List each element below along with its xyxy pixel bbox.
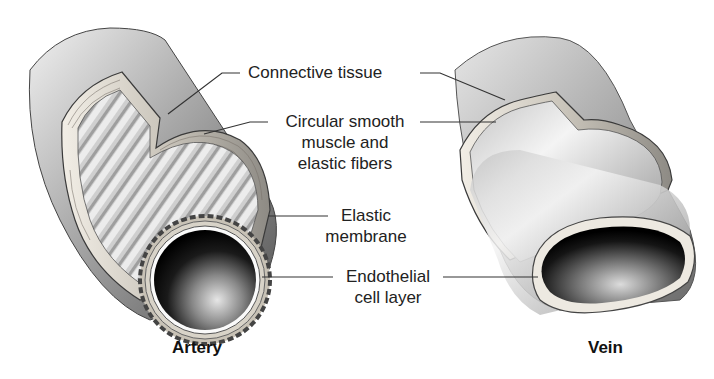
label-endothelial-cell-layer: Endothelial cell layer	[336, 266, 440, 308]
label-elastic-membrane-line1: Elastic	[316, 205, 416, 226]
label-elastic-membrane: Elastic membrane	[316, 205, 416, 247]
label-endothelial-line1: Endothelial	[336, 266, 440, 287]
label-circular-smooth-muscle-line1: Circular smooth	[270, 111, 420, 132]
label-circular-smooth-muscle-line2: muscle and	[270, 132, 420, 153]
label-endothelial-line2: cell layer	[336, 287, 440, 308]
label-circular-smooth-muscle-line3: elastic fibers	[270, 153, 420, 174]
label-connective-tissue: Connective tissue	[248, 62, 382, 83]
caption-artery: Artery	[172, 338, 222, 358]
caption-vein: Vein	[588, 338, 623, 358]
artery-illustration	[29, 28, 276, 344]
vessel-diagram: Connective tissue Circular smooth muscle…	[0, 0, 714, 379]
diagram-artwork	[0, 0, 714, 379]
vein-illustration	[455, 37, 696, 315]
label-elastic-membrane-line2: membrane	[316, 226, 416, 247]
label-circular-smooth-muscle: Circular smooth muscle and elastic fiber…	[270, 111, 420, 174]
